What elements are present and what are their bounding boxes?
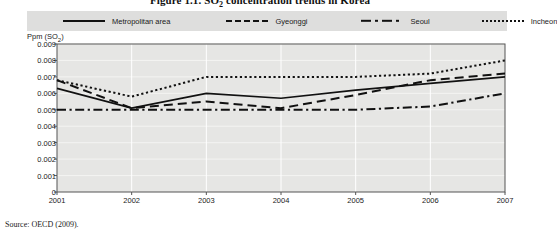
legend-item-incheon[interactable]: Incheon — [482, 17, 557, 26]
x-axis-tick-2001: 2001 — [27, 196, 87, 205]
y-axis-tick-3: 0.006 — [10, 89, 56, 98]
legend-label-metropolitan-area: Metropolitan area — [112, 17, 170, 26]
figure-title-suffix: concentration trends in Korea — [223, 0, 370, 6]
legend-item-gyeonggi[interactable]: Gyeonggi — [226, 17, 307, 26]
x-axis-tick-2004: 2004 — [251, 196, 311, 205]
x-axis-tick-2003: 2003 — [176, 196, 236, 205]
y-axis-tick-2: 0.007 — [10, 72, 56, 81]
y-axis-tick-8: 0.001 — [10, 171, 56, 180]
y-axis-tick-labels: 0.0090.0080.0070.0060.0050.0040.0030.002… — [10, 40, 56, 212]
legend-line-dashed-icon — [226, 17, 268, 26]
x-axis-tick-2007: 2007 — [475, 196, 535, 205]
x-axis-tick-2006: 2006 — [400, 196, 460, 205]
figure-title: Figure 1.1. SO2 concentration trends in … — [0, 0, 520, 9]
x-axis-tick-2005: 2005 — [326, 196, 386, 205]
y-axis-tick-5: 0.004 — [10, 122, 56, 131]
legend-label-incheon: Incheon — [531, 17, 557, 26]
legend-line-dotted-icon — [482, 17, 524, 26]
y-axis-tick-4: 0.005 — [10, 105, 56, 114]
y-axis-tick-1: 0.008 — [10, 56, 56, 65]
legend-line-dashdot-icon — [361, 17, 403, 26]
legend-item-seoul[interactable]: Seoul — [361, 17, 429, 26]
legend-line-solid-icon — [63, 17, 105, 26]
legend-label-seoul: Seoul — [410, 17, 429, 26]
plot-area: 0.0090.0080.0070.0060.0050.0040.0030.002… — [0, 40, 520, 212]
chart-legend: Metropolitan area Gyeonggi Seoul Incheon — [27, 11, 507, 31]
y-axis-tick-0: 0.009 — [10, 40, 56, 49]
figure-title-prefix: Figure 1.1. — [150, 0, 201, 6]
figure-title-main: SO — [204, 0, 219, 6]
source-caption: Source: OECD (2009). — [5, 220, 79, 229]
legend-label-gyeonggi: Gyeonggi — [275, 17, 307, 26]
x-axis-tick-2002: 2002 — [102, 196, 162, 205]
chart-canvas — [0, 40, 520, 212]
y-axis-tick-7: 0.002 — [10, 155, 56, 164]
y-axis-tick-6: 0.003 — [10, 138, 56, 147]
legend-item-metropolitan-area[interactable]: Metropolitan area — [63, 17, 170, 26]
